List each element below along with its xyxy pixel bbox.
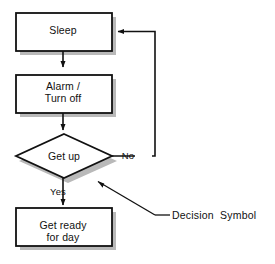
edge-label-no: No — [118, 150, 138, 161]
node-layer — [16, 13, 112, 246]
edge-label-yes: Yes — [46, 186, 70, 197]
node-alarm[interactable] — [16, 75, 112, 113]
edge-getup-no-to-sleep — [112, 32, 155, 157]
node-getup[interactable] — [16, 134, 112, 178]
annotation-decision-symbol: Decision Symbol — [172, 209, 256, 221]
node-getready[interactable] — [16, 208, 112, 246]
flowchart-graphics — [0, 0, 275, 264]
flowchart-canvas: Sleep Alarm / Turn off Get up Get ready … — [0, 0, 275, 264]
node-sleep[interactable] — [16, 13, 112, 51]
